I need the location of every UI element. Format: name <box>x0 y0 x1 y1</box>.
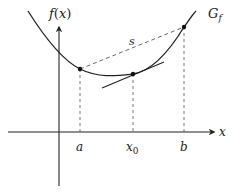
point-x0 <box>131 72 135 76</box>
x-axis-label: x <box>219 125 226 139</box>
secant-label: s <box>129 35 135 48</box>
secant-line <box>80 27 184 69</box>
y-axis-label: f(x) <box>48 6 71 21</box>
tick-label-b: b <box>180 140 188 154</box>
tick-label-x0: x0 <box>126 140 139 156</box>
point-b <box>182 25 186 29</box>
tick-label-a: a <box>76 140 83 154</box>
curve-label: Gf <box>208 6 223 23</box>
function-diagram: f(x) Gf s x a x0 b <box>0 0 236 192</box>
point-a <box>78 67 82 71</box>
